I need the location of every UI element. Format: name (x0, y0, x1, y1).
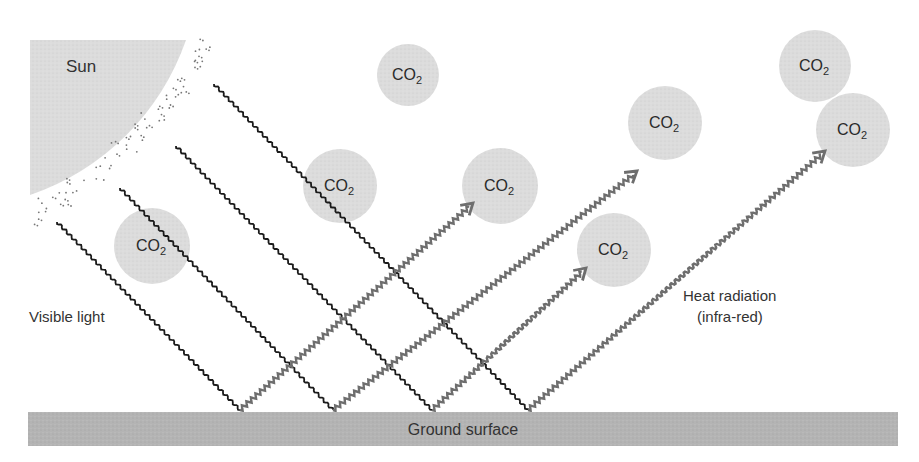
sun-shape (30, 40, 186, 195)
ground-surface: Ground surface (28, 412, 898, 446)
co2-molecule: CO2 (779, 30, 851, 102)
ground-label: Ground surface (408, 421, 518, 438)
co2-molecules: CO2CO2CO2CO2CO2CO2CO2CO2 (114, 30, 890, 287)
visible-light-ray (214, 84, 529, 409)
co2-molecule: CO2 (303, 149, 377, 223)
visible-light-label: Visible light (29, 308, 105, 325)
heat-radiation-ray (240, 203, 473, 411)
greenhouse-diagram: Sun CO2CO2CO2CO2CO2CO2CO2CO2 Visible lig… (0, 0, 919, 462)
sun-label: Sun (66, 57, 96, 76)
sun: Sun (30, 40, 186, 195)
co2-molecule: CO2 (628, 86, 702, 160)
co2-molecule: CO2 (816, 93, 890, 167)
heat-radiation-label: Heat radiation (683, 287, 776, 304)
visible-light-ray (120, 188, 333, 410)
co2-molecule: CO2 (577, 213, 651, 287)
co2-molecule: CO2 (462, 148, 538, 224)
heat-radiation-sublabel: (infra-red) (697, 308, 763, 325)
co2-molecule: CO2 (377, 44, 439, 106)
